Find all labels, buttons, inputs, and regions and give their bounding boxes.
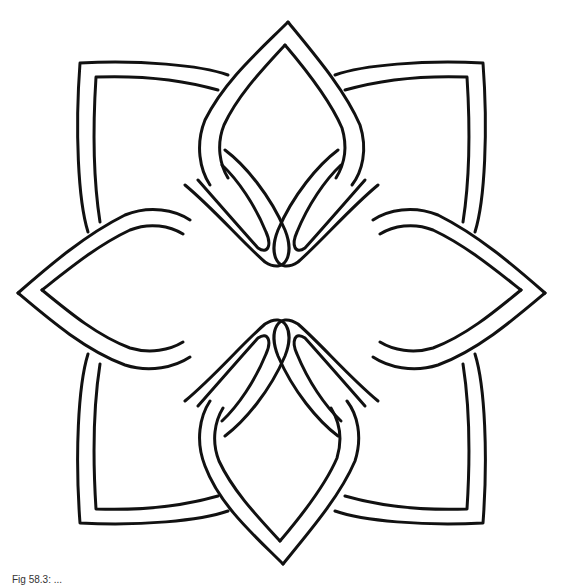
- figure-caption: Fig 58.3: ...: [12, 574, 62, 585]
- inner-loops: [185, 150, 378, 436]
- corner-petals: [78, 62, 486, 524]
- central-cross: [18, 22, 545, 564]
- celtic-knot-illustration: [0, 0, 563, 586]
